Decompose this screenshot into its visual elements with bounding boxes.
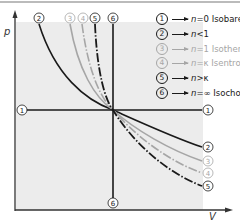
arrow-icon [172,78,188,79]
legend-text: n=κ Isentrope [191,58,240,68]
marker-right-5-label: 5 [206,183,210,191]
x-axis-label: V [209,211,216,222]
marker-right-1-label: 1 [206,107,210,115]
arrow-icon [172,49,188,50]
legend-item-isochore: 6 n=∞ Isochore [156,86,240,100]
y-axis-arrow-icon [13,10,18,18]
marker-top-4-label: 4 [81,15,86,23]
legend-item-isentrope: 4 n=κ Isentrope [156,56,240,70]
marker-top-2-label: 2 [37,15,41,23]
marker-top-3-label: 3 [68,15,72,23]
legend-item-n-greater-kappa: 5 n>κ [156,71,209,85]
arrow-icon [172,19,188,20]
legend-number: 1 [156,13,168,25]
legend-text: n=0 Isobare [191,14,240,24]
marker-top-5-label: 5 [93,15,97,23]
y-axis-label: p [4,26,10,37]
arrow-icon [172,34,188,35]
marker-right-3-label: 3 [206,158,210,166]
legend-number: 5 [156,72,168,84]
marker-bottom-6-label: 6 [111,200,116,208]
legend-number: 2 [156,28,168,40]
legend-text: n<1 [191,29,209,39]
legend-text: n=1 Isotherme [191,44,240,54]
legend-item-isobare: 1 n=0 Isobare [156,12,240,26]
arrow-icon [172,63,188,64]
x-axis-arrow-icon [225,208,233,213]
arrow-icon [172,93,188,94]
legend-item-isotherme: 3 n=1 Isotherme [156,42,240,56]
legend-text: n>κ [191,73,209,83]
legend-text: n=∞ Isochore [191,88,240,98]
legend-number: 4 [156,57,168,69]
legend-number: 3 [156,43,168,55]
legend-item-n-less-1: 2 n<1 [156,27,209,41]
marker-right-4-label: 4 [206,170,211,178]
marker-right-2-label: 2 [206,144,210,152]
legend-number: 6 [156,87,168,99]
marker-left-1-label: 1 [20,107,24,115]
marker-top-6-label: 6 [111,15,116,23]
